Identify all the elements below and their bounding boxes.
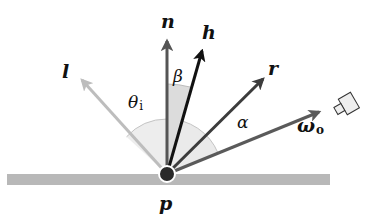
theta-symbol: θ — [128, 92, 138, 112]
camera-icon — [331, 92, 359, 119]
r-label: r — [268, 57, 280, 79]
omega-subscript: o — [316, 123, 324, 137]
l-label: l — [62, 60, 69, 82]
omega-o-label: ωo — [297, 114, 324, 137]
alpha-label: α — [237, 112, 249, 132]
beta-label: β — [172, 66, 183, 86]
p-label: p — [159, 192, 173, 214]
surface-point — [159, 166, 175, 182]
h-label: h — [202, 21, 216, 43]
n-label: n — [161, 10, 175, 32]
theta-subscript: i — [139, 99, 143, 113]
omega-symbol: ω — [297, 114, 315, 136]
theta-i-label: θi — [128, 92, 143, 113]
reflection-diagram: n h l r ωo p θi β α — [0, 0, 385, 224]
